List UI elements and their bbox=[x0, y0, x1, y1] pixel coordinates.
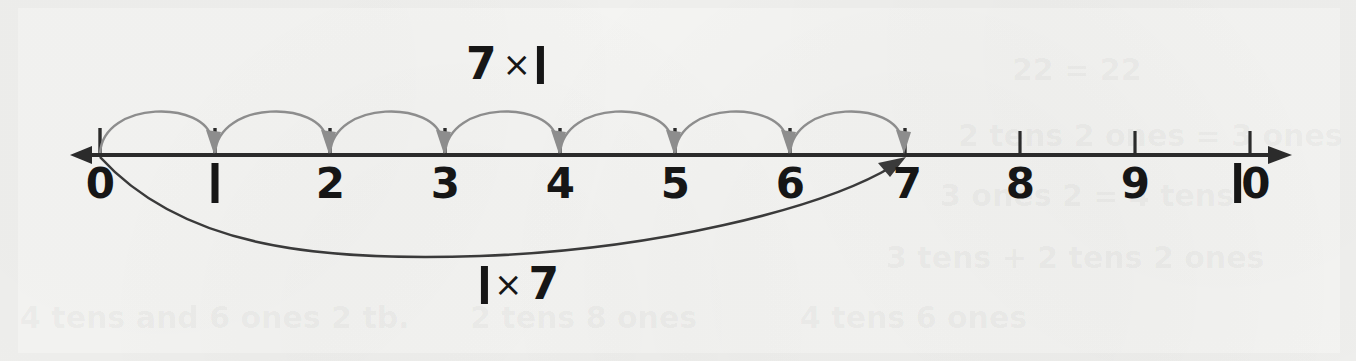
tick-label-1 bbox=[212, 163, 219, 205]
tick-label-9: 9 bbox=[1121, 163, 1150, 205]
bottom-multiplication-icon: × bbox=[488, 264, 529, 304]
tick-label-8: 8 bbox=[1006, 163, 1035, 205]
hop-arc-0-to-1 bbox=[100, 111, 221, 154]
hop-arc-2-to-3 bbox=[330, 111, 451, 154]
tick-label-10: 0 bbox=[1234, 163, 1270, 205]
hop-arc-4-to-5 bbox=[560, 111, 681, 154]
expression-label-top: 7× bbox=[466, 42, 544, 86]
tick-label-2: 2 bbox=[316, 163, 345, 205]
top-multiplication-icon: × bbox=[497, 44, 538, 84]
axis-right-arrowhead bbox=[1268, 146, 1292, 164]
hop-arc-6-to-7 bbox=[790, 111, 911, 154]
hop-arc-5-to-6 bbox=[675, 111, 796, 154]
tick-label-0: 0 bbox=[86, 163, 115, 205]
tick-label-4: 4 bbox=[546, 163, 575, 205]
hop-arc-3-to-4 bbox=[445, 111, 566, 154]
tick-label-6: 6 bbox=[776, 163, 805, 205]
scanned-page: 22 = 22 2 tens 2 ones = 3 ones 3 ones 2 … bbox=[0, 0, 1356, 361]
tick-label-7: 7 bbox=[893, 163, 922, 205]
hop-arc-1-to-2 bbox=[215, 111, 336, 154]
tick-label-10-zero: 0 bbox=[1241, 159, 1270, 208]
top-left-factor: 7 bbox=[466, 38, 497, 89]
tick-label-5: 5 bbox=[661, 163, 690, 205]
tick-label-3: 3 bbox=[431, 163, 460, 205]
expression-label-bottom: ×7 bbox=[481, 262, 559, 306]
top-right-factor-one bbox=[537, 46, 544, 84]
bottom-left-factor-one bbox=[481, 266, 488, 304]
hop-arcs-group bbox=[100, 111, 911, 154]
bottom-right-factor: 7 bbox=[528, 258, 559, 309]
